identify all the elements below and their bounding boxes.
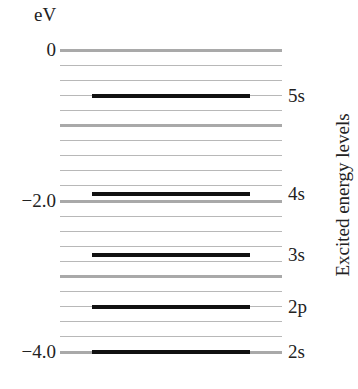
minor-grid-line	[60, 80, 282, 81]
level-line-2s	[92, 350, 250, 354]
level-label-2s: 2s	[288, 342, 305, 361]
minor-grid-line	[60, 321, 282, 322]
major-grid-line	[60, 200, 282, 203]
minor-grid-line	[60, 291, 282, 292]
major-grid-line	[60, 124, 282, 127]
level-label-5s: 5s	[288, 86, 305, 105]
minor-grid-line	[60, 110, 282, 111]
tick-label-minus-2: −2.0	[22, 191, 56, 210]
tick-label-0: 0	[47, 40, 57, 59]
minor-grid-line	[60, 336, 282, 337]
minor-grid-line	[60, 170, 282, 171]
minor-grid-line	[60, 216, 282, 217]
level-label-3s: 3s	[288, 245, 305, 264]
major-grid-line	[60, 49, 282, 52]
minor-grid-line	[60, 261, 282, 262]
tick-label-minus-4: −4.0	[22, 342, 56, 361]
unit-label: eV	[34, 4, 56, 26]
minor-grid-line	[60, 65, 282, 66]
level-label-4s: 4s	[288, 184, 305, 203]
minor-grid-line	[60, 246, 282, 247]
level-label-2p: 2p	[288, 297, 307, 316]
major-grid-line	[60, 275, 282, 278]
level-line-3s	[92, 253, 250, 257]
minor-grid-line	[60, 155, 282, 156]
level-line-2p	[92, 305, 250, 309]
level-line-4s	[92, 192, 250, 196]
level-line-5s	[92, 94, 250, 98]
axis-title: Excited energy levels	[332, 113, 354, 276]
minor-grid-line	[60, 140, 282, 141]
minor-grid-line	[60, 185, 282, 186]
minor-grid-line	[60, 231, 282, 232]
